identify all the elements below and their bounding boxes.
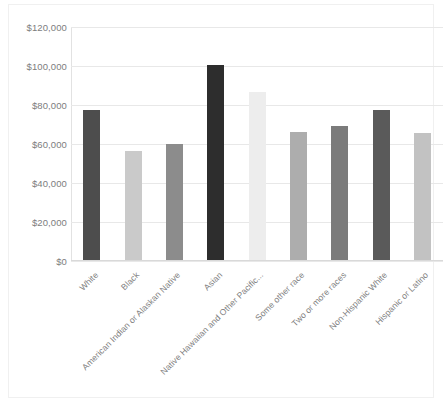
y-axis-tick-label: $40,000 xyxy=(9,178,67,189)
bar[interactable] xyxy=(331,126,348,260)
y-axis: $0$20,000$40,000$60,000$80,000$100,000$1… xyxy=(9,27,67,261)
bar-series xyxy=(71,27,443,261)
bar[interactable] xyxy=(83,110,100,260)
plot-area xyxy=(71,27,443,261)
bar[interactable] xyxy=(207,65,224,260)
bar[interactable] xyxy=(166,144,183,260)
bar[interactable] xyxy=(414,133,431,260)
bar[interactable] xyxy=(249,92,266,260)
x-axis: WhiteBlackAmerican Indian or Alaskan Nat… xyxy=(71,263,443,399)
gridline xyxy=(71,261,443,262)
y-axis-tick-label: $80,000 xyxy=(9,100,67,111)
x-axis-tick-label-text: Black xyxy=(119,270,141,292)
y-axis-tick-label: $120,000 xyxy=(9,22,67,33)
x-axis-tick-label-text: Asian xyxy=(201,270,224,293)
bar[interactable] xyxy=(373,110,390,260)
y-axis-tick-label: $20,000 xyxy=(9,217,67,228)
x-axis-tick-label: White xyxy=(80,267,103,290)
x-axis-tick-label-text: White xyxy=(77,270,100,293)
chart-container: $0$20,000$40,000$60,000$80,000$100,000$1… xyxy=(8,4,434,398)
y-axis-tick-label: $0 xyxy=(9,256,67,267)
bar[interactable] xyxy=(290,132,307,260)
bar[interactable] xyxy=(125,151,142,260)
x-axis-tick-label: Asian xyxy=(204,267,227,290)
x-axis-tick-label: Black xyxy=(122,267,144,289)
y-axis-tick-label: $60,000 xyxy=(9,139,67,150)
y-axis-tick-label: $100,000 xyxy=(9,61,67,72)
